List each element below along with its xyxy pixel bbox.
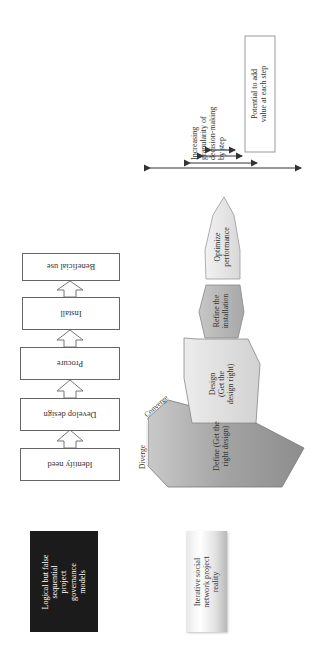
step-label: Develop design [43,410,96,420]
stage-refine-label: Refine the installation [213,276,230,346]
granularity-legend-label: Increasing granularity of decision-makin… [191,60,227,160]
stage-define-label: Define (Get the right design) [213,411,231,481]
step-label: Procure [57,359,83,369]
step-label: Identify need [47,460,92,470]
iterative-reality-label-box: Iterative social network project reality [186,531,227,632]
sequential-model-label: Logical but false sequential project gov… [41,532,87,632]
step-identify-need: Identify need [20,448,120,481]
step-label: Install [60,309,81,319]
step-beneficial-use: Beneficial use [22,253,120,281]
step-procure: Procure [20,347,120,380]
step-install: Install [22,297,120,330]
stage-design-label: Design (Get the design right) [209,349,236,419]
iterative-reality-label: Iterative social network project reality [193,532,221,632]
step-label: Beneficial use [47,262,95,272]
potential-legend-label: Potential to add value at each step [251,39,269,149]
sequential-model-label-box: Logical but false sequential project gov… [30,531,98,632]
stage-optimize-label: Optimize performance [214,212,231,282]
diverge-label: Diverge [138,445,147,469]
step-develop-design: Develop design [20,398,120,431]
